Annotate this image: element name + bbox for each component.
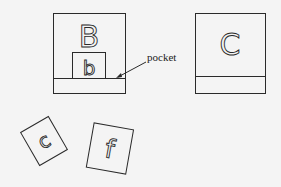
envelope-c: C	[196, 14, 266, 94]
letter-C: C	[220, 27, 241, 62]
arrowhead-icon	[116, 73, 122, 78]
diagram-canvas: B b pocket C c f	[0, 0, 281, 187]
envelope-b: B b	[54, 14, 126, 94]
arrow-icon	[118, 62, 146, 77]
pocket-label: pocket	[147, 51, 176, 63]
card-f: f	[86, 123, 133, 174]
letter-b: b	[83, 56, 96, 80]
letter-f: f	[103, 133, 118, 164]
card-c: c	[21, 117, 68, 166]
letter-c: c	[33, 128, 55, 154]
letter-B: B	[79, 19, 100, 54]
